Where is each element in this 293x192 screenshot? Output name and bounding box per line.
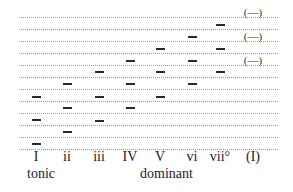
chord-note [216, 48, 225, 50]
chord-note [63, 107, 72, 109]
chord-label: vii° [210, 150, 230, 164]
staff-line [19, 125, 278, 126]
staff-line [19, 41, 278, 42]
chord-note [156, 71, 165, 73]
function-label-dominant: dominant [140, 167, 193, 181]
staff-line [19, 137, 278, 138]
staff-line [19, 89, 278, 90]
chord-note [188, 36, 197, 38]
optional-note: (—) [244, 55, 262, 66]
chord-note [156, 48, 165, 50]
optional-note: (—) [244, 31, 262, 42]
staff-line [19, 77, 278, 78]
chord-note [32, 119, 41, 121]
chord-note [95, 71, 104, 73]
staff-line [19, 113, 278, 114]
chord-note [156, 96, 165, 98]
optional-note: (—) [244, 7, 262, 18]
chord-note [63, 83, 72, 85]
chord-note [126, 83, 135, 85]
staff-line [19, 53, 278, 54]
chord-note [63, 131, 72, 133]
chord-label: (I) [246, 150, 260, 164]
staff-line [19, 29, 278, 30]
chord-note [188, 83, 197, 85]
chord-label: V [155, 150, 165, 164]
chord-label: IV [123, 150, 138, 164]
chord-note [95, 120, 104, 122]
chord-note [126, 60, 135, 62]
chord-label: I [34, 150, 39, 164]
chord-note [216, 71, 225, 73]
staff-line [19, 101, 278, 102]
function-label-tonic: tonic [27, 167, 55, 181]
chord-note [188, 60, 197, 62]
chord-note [126, 107, 135, 109]
chord-label: iii [93, 150, 105, 164]
chord-note [32, 96, 41, 98]
staff-line [19, 17, 278, 18]
chord-note [32, 143, 41, 145]
chord-note [95, 96, 104, 98]
staff-line [19, 149, 278, 150]
chord-label: vi [187, 150, 198, 164]
chord-note [216, 24, 225, 26]
staff-line [19, 65, 278, 66]
chord-label: ii [63, 150, 71, 164]
